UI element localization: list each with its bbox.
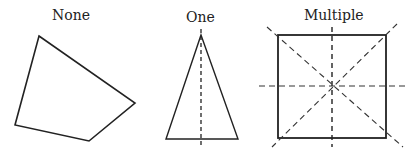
isosceles-triangle <box>166 35 238 139</box>
symmetry-axis-diagonal-1 <box>267 27 403 147</box>
irregular-quadrilateral <box>15 36 135 141</box>
symmetry-diagram <box>0 0 410 156</box>
